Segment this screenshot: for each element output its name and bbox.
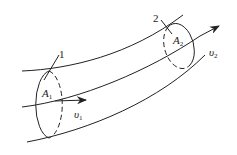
velocity1-label: υ1: [74, 108, 83, 122]
velocity2-label: υ2: [209, 46, 218, 60]
stream-tube-diagram: 1 A1 υ1 2 A2 υ2: [0, 0, 237, 155]
section1-ellipse-back: [49, 71, 62, 138]
top-streamline: [22, 15, 183, 71]
area1-label: A1: [41, 87, 53, 101]
area2-label: A2: [172, 34, 184, 48]
section2-marker-line: [161, 20, 172, 34]
exit-arrow: [200, 26, 219, 36]
section2-number: 2: [153, 12, 159, 24]
section1-number: 1: [59, 48, 65, 60]
